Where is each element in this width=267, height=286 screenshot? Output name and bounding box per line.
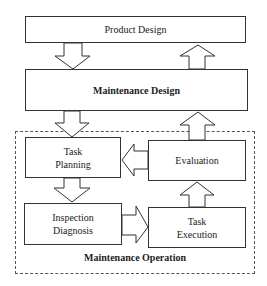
arrow-up-icon [180,182,214,207]
arrow-up-icon [180,112,215,140]
arrow-right-icon [122,206,148,243]
arrows-layer [0,0,267,286]
arrow-down-icon [55,43,90,69]
arrow-left-icon [122,144,148,176]
arrow-up-icon [180,45,215,69]
arrow-down-icon [54,178,90,202]
arrow-down-icon [55,111,89,137]
